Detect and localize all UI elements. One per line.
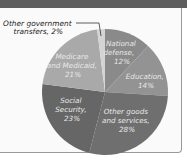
pie-chart: Other government transfers, 2% National …	[0, 0, 187, 166]
label-other-transfers: Other government transfers, 2%	[3, 19, 74, 36]
